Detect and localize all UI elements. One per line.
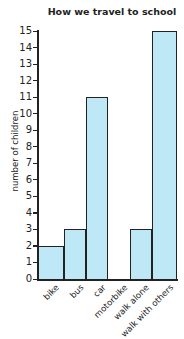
y-axis-line — [37, 30, 39, 280]
y-tick — [33, 64, 38, 65]
y-tick-label: 4 — [18, 208, 32, 218]
y-tick — [33, 31, 38, 32]
y-tick — [33, 212, 38, 213]
x-tick-label: bus — [68, 283, 85, 300]
y-tick-label: 14 — [18, 43, 32, 53]
y-tick-label: 8 — [18, 142, 32, 152]
y-tick-label: 3 — [18, 224, 32, 234]
y-tick-label: 9 — [18, 125, 32, 135]
y-tick-label: 6 — [18, 175, 32, 185]
y-tick — [33, 196, 38, 197]
y-tick-label: 2 — [18, 241, 32, 251]
y-tick — [33, 80, 38, 81]
y-tick — [33, 97, 38, 98]
y-tick-label: 7 — [18, 158, 32, 168]
bar-bike — [38, 246, 64, 279]
x-axis-line — [37, 279, 178, 281]
y-tick-label: 0 — [18, 274, 32, 284]
y-tick — [33, 130, 38, 131]
y-tick-label: 10 — [18, 109, 32, 119]
chart-title: How we travel to school — [40, 6, 184, 17]
y-tick — [33, 146, 38, 147]
y-tick — [33, 163, 38, 164]
y-tick-label: 11 — [18, 92, 32, 102]
y-tick — [33, 113, 38, 114]
y-tick-label: 12 — [18, 76, 32, 86]
y-tick — [33, 179, 38, 180]
y-tick-label: 15 — [18, 26, 32, 36]
bar-bus — [64, 229, 86, 279]
x-tick-label: bike — [43, 283, 62, 302]
x-tick-label: car — [92, 283, 108, 299]
y-tick-label: 13 — [18, 59, 32, 69]
y-tick-label: 5 — [18, 191, 32, 201]
bar-walk-alone — [130, 229, 152, 279]
bar-walk-with-others — [152, 31, 177, 279]
bar-car — [86, 97, 108, 279]
y-tick-label: 1 — [18, 257, 32, 267]
y-tick — [33, 47, 38, 48]
y-tick — [33, 229, 38, 230]
